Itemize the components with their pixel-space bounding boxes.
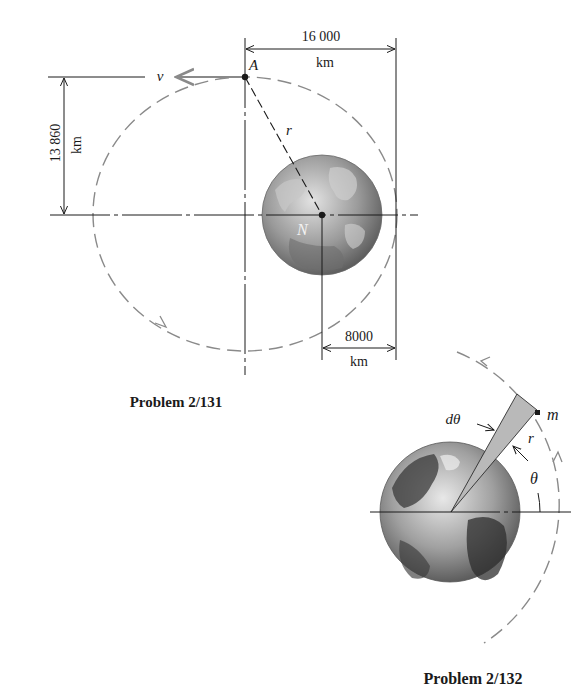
dimension-unit-8000: km (350, 354, 368, 369)
caption-problem-2-132: Problem 2/132 (424, 670, 523, 687)
point-A-label: A (248, 57, 259, 73)
point-A-marker (242, 74, 248, 80)
dimension-value-16000: 16 000 (302, 29, 341, 44)
earth-center-marker (319, 212, 325, 218)
angle-increment-leader-arrow (477, 424, 494, 430)
angle-increment-label: dθ (446, 411, 462, 427)
figure-problem-2-132: m r dθ θ Problem 2/132 (370, 352, 571, 687)
radius-label: r (286, 122, 292, 138)
radius-label: r (528, 430, 534, 446)
dimension-value-8000: 8000 (345, 329, 373, 344)
caption-problem-2-131: Problem 2/131 (130, 394, 223, 410)
orbit-arrow-right-icon (553, 452, 562, 462)
velocity-label: v (157, 68, 164, 84)
north-pole-label: N (296, 221, 309, 238)
dimension-unit-16000: km (316, 55, 334, 70)
figure-problem-2-131: 16 000 km 13 860 km 8000 km v r A N Prob… (48, 29, 418, 410)
theta-arc (538, 493, 540, 512)
dimension-unit-13860: km (69, 136, 84, 154)
angle-label: θ (530, 470, 538, 487)
mass-label: m (547, 406, 559, 423)
mass-marker (535, 410, 540, 415)
dimension-value-13860: 13 860 (48, 124, 63, 163)
diagram-canvas: 16 000 km 13 860 km 8000 km v r A N Prob… (0, 0, 571, 688)
radius-leader-arrow (513, 446, 528, 461)
